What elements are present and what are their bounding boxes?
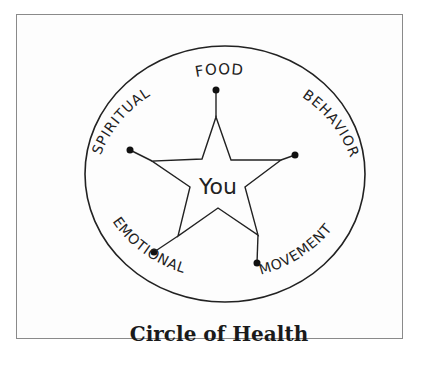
svg-text:FOOD: FOOD xyxy=(194,60,245,81)
figure-caption: Circle of Health xyxy=(0,322,438,346)
svg-text:MOVEMENT: MOVEMENT xyxy=(257,220,335,278)
dot-spiritual xyxy=(127,147,134,154)
dot-food xyxy=(213,87,220,94)
dot-behavior xyxy=(292,152,299,159)
circle-of-health-diagram: FOOD BEHAVIOR SPIRITUAL EMOTIONAL MOVEME… xyxy=(0,0,438,373)
label-food: FOOD xyxy=(194,60,245,81)
center-label: You xyxy=(198,174,237,199)
label-emotional: EMOTIONAL xyxy=(110,214,188,276)
label-movement: MOVEMENT xyxy=(257,220,335,278)
svg-text:EMOTIONAL: EMOTIONAL xyxy=(110,214,188,276)
